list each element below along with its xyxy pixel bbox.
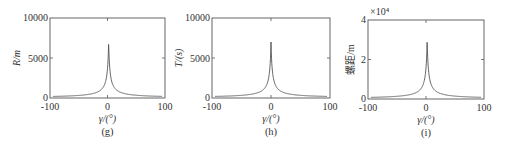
x-axis-label: γ/(°) <box>99 113 117 125</box>
x-tick-mid: 0 <box>424 102 429 113</box>
panel-caption: (i) <box>421 127 431 139</box>
y-tick-top: 10000 <box>23 12 48 23</box>
data-curve <box>215 42 327 96</box>
y-tick-mid: 5000 <box>190 53 210 64</box>
plot-frame <box>368 20 484 99</box>
x-tick-left: -100 <box>359 102 377 113</box>
x-tick-mid: 0 <box>269 101 274 112</box>
figure: 10000 5000 0 -100 0 100 γ/(°) R/m (g) 10… <box>0 0 505 153</box>
y-tick-top: 4 <box>361 14 366 25</box>
y-tick-mid: 5000 <box>28 53 48 64</box>
x-tick-right: 100 <box>477 102 492 113</box>
y-tick-top: 10000 <box>185 12 210 23</box>
panel-caption: (h) <box>265 126 278 138</box>
x-tick-left: -100 <box>41 101 59 112</box>
data-curve <box>53 44 162 96</box>
plot-frame <box>50 18 165 98</box>
y-multiplier: ×10⁴ <box>370 6 390 17</box>
y-axis-label: 螺距/m <box>345 44 356 75</box>
axis-ticks <box>50 18 165 98</box>
x-tick-mid: 0 <box>105 101 110 112</box>
data-curve <box>371 42 481 97</box>
y-tick-mid: 2 <box>361 54 366 65</box>
x-tick-left: -100 <box>203 101 221 112</box>
axis-ticks <box>212 18 330 98</box>
x-tick-right: 100 <box>323 101 338 112</box>
axis-ticks <box>368 20 484 99</box>
x-axis-label: γ/(°) <box>417 114 435 126</box>
x-tick-right: 100 <box>158 101 173 112</box>
chart-panel-h: 10000 5000 0 -100 0 100 γ/(°) T/(s) (h) <box>173 12 338 138</box>
chart-panel-g: 10000 5000 0 -100 0 100 γ/(°) R/m (g) <box>11 12 173 138</box>
chart-panel-i: 4 2 0 -100 0 100 γ/(°) 螺距/m ×10⁴ (i) <box>345 6 492 139</box>
panel-caption: (g) <box>101 126 114 138</box>
plot-frame <box>212 18 330 98</box>
y-axis-label: R/m <box>11 50 22 67</box>
y-axis-label: T/(s) <box>173 48 185 68</box>
x-axis-label: γ/(°) <box>262 113 280 125</box>
